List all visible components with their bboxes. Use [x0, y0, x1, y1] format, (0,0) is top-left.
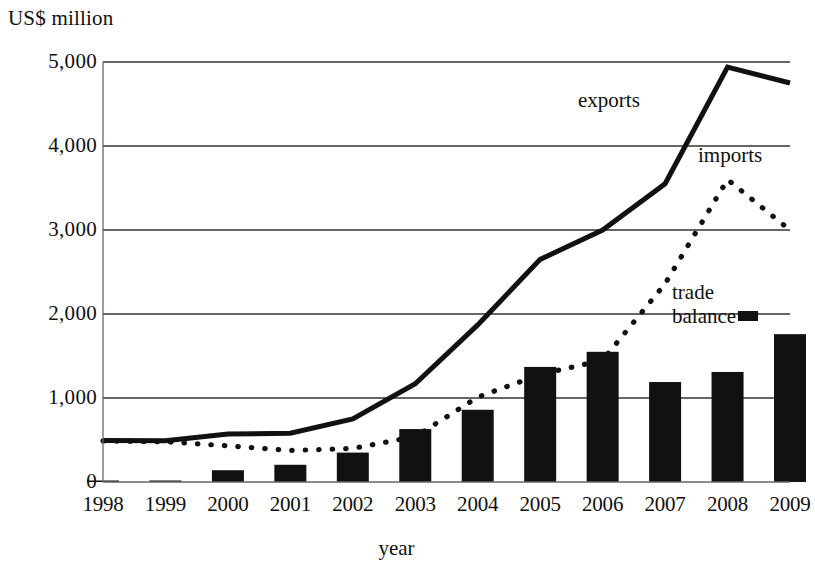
- x-tick-label: 1998: [73, 492, 133, 517]
- x-tick-label: 2004: [448, 492, 508, 517]
- x-tick-label: 2008: [698, 492, 758, 517]
- series-label-imports: imports: [698, 143, 762, 168]
- series-label-exports: exports: [578, 88, 640, 113]
- x-axis-title: year: [0, 536, 793, 561]
- gridlines: [103, 62, 790, 398]
- trade-balance-swatch: [738, 311, 758, 321]
- x-tick-label: 2002: [323, 492, 383, 517]
- x-tick-label: 2001: [260, 492, 320, 517]
- series-label-trade-line2: balance: [672, 304, 736, 328]
- x-tick-label: 2003: [385, 492, 445, 517]
- series-label-trade-line1: trade: [672, 280, 714, 304]
- x-tick-label: 1999: [135, 492, 195, 517]
- x-tick-label: 2009: [760, 492, 815, 517]
- x-tick-label: 2005: [510, 492, 570, 517]
- x-tick-label: 2007: [635, 492, 695, 517]
- line-series-exports: [103, 67, 790, 441]
- series-label-trade-balance: trade balance: [672, 281, 758, 328]
- x-tick-label: 2006: [573, 492, 633, 517]
- x-tick-label: 2000: [198, 492, 258, 517]
